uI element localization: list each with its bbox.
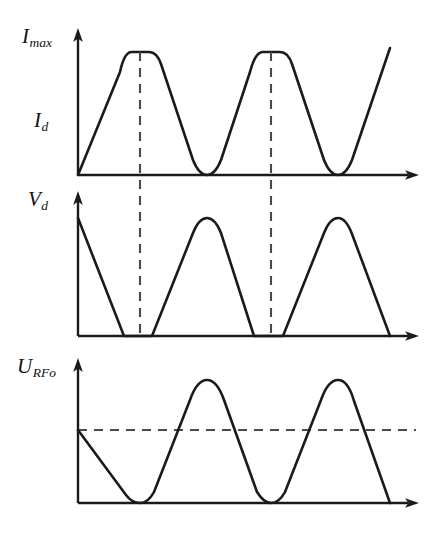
- label-vd: Vd: [28, 189, 48, 210]
- vertical-markers: [140, 52, 271, 336]
- panel-urfo: [73, 358, 419, 508]
- label-id-base: I: [34, 108, 41, 132]
- label-vd-sub: d: [41, 198, 48, 213]
- panel-id-waveform: [78, 48, 390, 175]
- panel-id: [73, 28, 419, 180]
- label-urfo-base: U: [17, 354, 32, 378]
- waveform-plot: [0, 0, 445, 533]
- waveform-figure: Imax Id Vd URFo: [0, 0, 445, 533]
- label-imax-base: I: [22, 24, 29, 48]
- label-id: Id: [34, 110, 48, 131]
- panel-urfo-waveform: [78, 380, 390, 503]
- panel-vd: [73, 191, 419, 341]
- panel-vd-waveform: [78, 218, 390, 336]
- label-vd-base: V: [28, 187, 41, 211]
- label-imax-sub: max: [30, 35, 53, 50]
- label-imax: Imax: [22, 26, 52, 47]
- label-urfo: URFo: [17, 356, 55, 377]
- label-urfo-sub: RFo: [33, 365, 56, 380]
- label-id-sub: d: [42, 119, 49, 134]
